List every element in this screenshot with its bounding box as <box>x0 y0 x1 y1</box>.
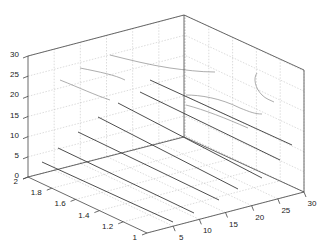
y-tick-label: 30 <box>308 199 317 208</box>
x-tick-mark <box>47 188 52 190</box>
x-tick-label: 1.6 <box>54 199 66 208</box>
grid-back-left-wall <box>28 15 185 177</box>
y-tick-mark <box>304 192 306 197</box>
x-axis-ticks: 11.21.41.61.82 <box>14 177 147 242</box>
z-tick-mark <box>23 96 28 98</box>
z-tick-mark <box>23 157 28 159</box>
series-line-2 <box>58 148 194 213</box>
z-axis-ticks: 051015202530 <box>10 50 28 180</box>
x-tick-label: 2 <box>14 177 19 186</box>
z-tick-mark <box>23 76 28 78</box>
series-line-1 <box>42 162 173 222</box>
x-tick-mark <box>71 199 76 201</box>
x-tick-label: 1.8 <box>31 188 43 197</box>
z-tick-mark <box>23 56 28 58</box>
x-tick-label: 1 <box>133 233 138 242</box>
x-tick-label: 1.2 <box>102 222 114 231</box>
z-tick-mark <box>23 117 28 119</box>
z-tick-label: 5 <box>15 151 20 160</box>
y-tick-label: 5 <box>179 233 184 242</box>
z-tick-label: 15 <box>10 111 19 120</box>
y-tick-label: 10 <box>203 226 212 235</box>
grid-back-right-wall <box>185 15 304 192</box>
y-tick-label: 20 <box>255 213 264 222</box>
3d-line-plot: 051015202530 11.21.41.61.82 51015202530 <box>0 0 331 251</box>
x-tick-mark <box>94 211 99 213</box>
y-tick-label: 15 <box>229 220 238 229</box>
z-tick-label: 10 <box>10 131 19 140</box>
y-tick-mark <box>226 213 228 218</box>
x-tick-mark <box>23 177 28 179</box>
y-tick-mark <box>252 206 254 211</box>
z-tick-label: 25 <box>10 70 19 79</box>
y-axis-ticks: 51015202530 <box>173 192 317 242</box>
back-wall-curves <box>60 55 274 128</box>
x-tick-mark <box>118 222 123 224</box>
y-tick-mark <box>199 219 201 224</box>
y-tick-mark <box>173 226 175 231</box>
z-tick-label: 30 <box>10 50 19 59</box>
x-tick-label: 1.4 <box>78 211 90 220</box>
x-tick-mark <box>142 233 147 235</box>
axis-box <box>28 15 304 233</box>
y-tick-mark <box>278 199 280 204</box>
y-tick-label: 25 <box>281 206 290 215</box>
series-line-7 <box>150 80 292 145</box>
z-tick-mark <box>23 137 28 139</box>
series-lines <box>42 80 292 222</box>
z-tick-label: 20 <box>10 90 19 99</box>
